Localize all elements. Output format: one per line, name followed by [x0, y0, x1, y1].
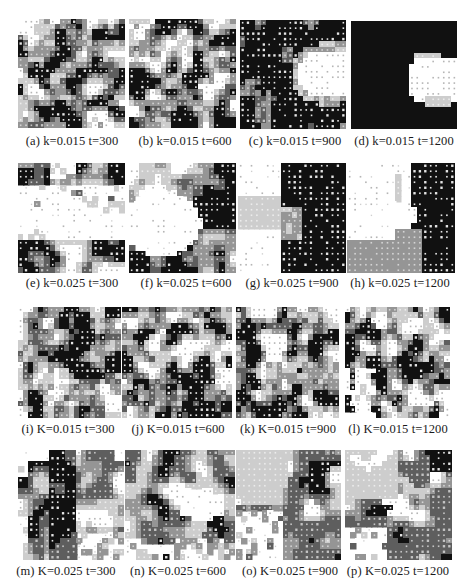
panel-j-lattice — [122, 307, 232, 418]
panel-d-caption: (d) k=0.015 t=1200 — [342, 134, 466, 148]
panel-p-caption: (p) K=0.025 t=1200 — [336, 564, 460, 578]
panel-a-lattice — [18, 19, 125, 128]
panel-h-caption: (h) k=0.025 t=1200 — [338, 276, 462, 290]
simulation-figure: (a) k=0.015 t=300 (b) k=0.015 t=600 (c) … — [0, 0, 473, 583]
panel-j-caption: (j) K=0.015 t=600 — [116, 422, 240, 436]
panel-p-lattice — [345, 450, 452, 560]
panel-o-lattice — [236, 450, 341, 560]
panel-d-lattice — [351, 21, 457, 129]
panel-h-lattice — [347, 163, 455, 273]
panel-e-caption: (e) k=0.025 t=300 — [10, 276, 134, 290]
panel-k-caption: (k) K=0.015 t=900 — [226, 422, 350, 436]
panel-i-caption: (i) K=0.015 t=300 — [6, 422, 130, 436]
panel-g-lattice — [238, 163, 346, 273]
panel-g-caption: (g) k=0.025 t=900 — [230, 276, 354, 290]
panel-a-caption: (a) k=0.015 t=300 — [10, 134, 134, 148]
panel-c-lattice — [240, 20, 346, 129]
panel-l-caption: (l) K=0.015 t=1200 — [336, 422, 460, 436]
panel-i-lattice — [18, 307, 121, 418]
panel-o-caption: (o) K=0.025 t=900 — [228, 564, 352, 578]
panel-n-lattice — [125, 450, 235, 560]
panel-l-lattice — [345, 307, 450, 418]
panel-k-lattice — [236, 307, 339, 418]
panel-n-caption: (n) K=0.025 t=600 — [116, 564, 240, 578]
panel-e-lattice — [18, 163, 125, 273]
panel-f-lattice — [129, 163, 236, 273]
panel-m-lattice — [18, 450, 124, 560]
panel-m-caption: (m) K=0.025 t=300 — [4, 564, 128, 578]
panel-b-caption: (b) k=0.015 t=600 — [123, 134, 247, 148]
panel-c-caption: (c) k=0.015 t=900 — [233, 134, 357, 148]
panel-b-lattice — [129, 19, 236, 128]
